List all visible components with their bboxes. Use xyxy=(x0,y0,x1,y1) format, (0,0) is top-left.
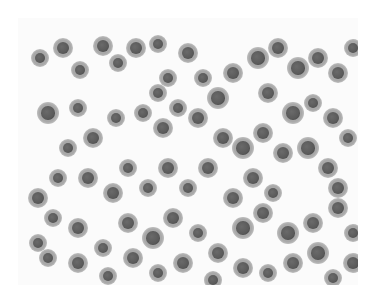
cell xyxy=(223,63,243,83)
cell xyxy=(53,38,73,58)
cell xyxy=(69,99,87,117)
cell-nucleus xyxy=(312,52,324,64)
cell xyxy=(178,43,198,63)
cell-nucleus xyxy=(146,231,160,245)
cell xyxy=(123,248,143,268)
cell xyxy=(208,243,228,263)
cell xyxy=(169,99,187,117)
cell-nucleus xyxy=(332,202,344,214)
cell xyxy=(343,253,358,273)
cell xyxy=(268,38,288,58)
cell xyxy=(93,36,113,56)
cell-nucleus xyxy=(291,61,305,75)
cell xyxy=(31,49,49,67)
cell-nucleus xyxy=(87,132,99,144)
cell xyxy=(83,128,103,148)
cell xyxy=(188,108,208,128)
cell xyxy=(243,168,263,188)
cell-nucleus xyxy=(75,65,86,76)
cell-nucleus xyxy=(122,217,134,229)
cell xyxy=(233,258,253,278)
cell xyxy=(232,137,254,159)
cell-nucleus xyxy=(263,268,274,279)
cell xyxy=(259,264,277,282)
cell-nucleus xyxy=(257,127,269,139)
cell xyxy=(323,108,343,128)
cell-nucleus xyxy=(272,42,284,54)
cell-nucleus xyxy=(193,228,204,239)
cell-nucleus xyxy=(311,246,325,260)
cell-nucleus xyxy=(97,40,109,52)
cell-nucleus xyxy=(212,247,224,259)
cell xyxy=(109,54,127,72)
cell xyxy=(28,188,48,208)
cell-nucleus xyxy=(32,192,44,204)
cell xyxy=(232,217,254,239)
cell xyxy=(134,104,152,122)
cell-nucleus xyxy=(177,257,189,269)
cell-nucleus xyxy=(202,162,214,174)
cell-nucleus xyxy=(247,172,259,184)
cell-nucleus xyxy=(236,221,250,235)
cell xyxy=(44,209,62,227)
cell xyxy=(328,178,348,198)
cell xyxy=(207,87,229,109)
cell-nucleus xyxy=(73,103,84,114)
cell xyxy=(68,218,88,238)
cell-nucleus xyxy=(322,162,334,174)
cell xyxy=(344,39,358,57)
cell xyxy=(303,213,323,233)
cell-nucleus xyxy=(33,238,44,249)
cell-nucleus xyxy=(286,106,300,120)
cell-nucleus xyxy=(183,183,194,194)
cell-nucleus xyxy=(143,183,154,194)
micrograph xyxy=(18,18,358,285)
cell xyxy=(78,168,98,188)
cell-nucleus xyxy=(153,268,164,279)
cell-nucleus xyxy=(82,172,94,184)
cell xyxy=(324,269,342,285)
cell xyxy=(173,253,193,273)
cell xyxy=(213,128,233,148)
cell xyxy=(273,143,293,163)
cell-nucleus xyxy=(153,39,164,50)
cell xyxy=(328,63,348,83)
cell xyxy=(71,61,89,79)
cell-nucleus xyxy=(287,257,299,269)
cell-nucleus xyxy=(192,112,204,124)
cell-nucleus xyxy=(236,141,250,155)
cell-nucleus xyxy=(167,212,179,224)
cell xyxy=(339,129,357,147)
cell-nucleus xyxy=(211,91,225,105)
cell xyxy=(287,57,309,79)
cell-nucleus xyxy=(332,67,344,79)
cell xyxy=(253,123,273,143)
cell-nucleus xyxy=(251,51,265,65)
cell-nucleus xyxy=(208,275,219,285)
cell xyxy=(307,242,329,264)
cell-nucleus xyxy=(332,182,344,194)
cell-nucleus xyxy=(277,147,289,159)
cell xyxy=(29,234,47,252)
cell xyxy=(68,253,88,273)
cell-nucleus xyxy=(268,188,279,199)
cell-nucleus xyxy=(153,88,164,99)
cell xyxy=(328,198,348,218)
cell-nucleus xyxy=(48,213,59,224)
cell xyxy=(264,184,282,202)
cell-nucleus xyxy=(348,43,358,54)
cell xyxy=(99,267,117,285)
cell-nucleus xyxy=(113,58,124,69)
cell-nucleus xyxy=(43,253,54,264)
cell xyxy=(118,213,138,233)
cell xyxy=(142,227,164,249)
cell-nucleus xyxy=(41,106,55,120)
cell-nucleus xyxy=(262,87,274,99)
cell xyxy=(94,239,112,257)
cell-nucleus xyxy=(72,222,84,234)
cell xyxy=(277,222,299,244)
cell xyxy=(318,158,338,178)
cell-nucleus xyxy=(343,133,354,144)
cell-nucleus xyxy=(173,103,184,114)
cell xyxy=(204,271,222,285)
